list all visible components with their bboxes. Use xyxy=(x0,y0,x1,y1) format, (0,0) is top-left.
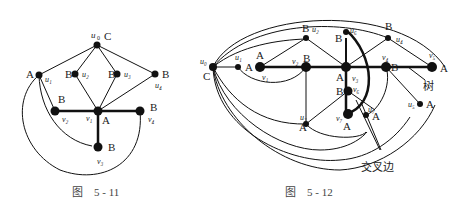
svg-text:B: B xyxy=(150,101,157,113)
figure-5-11-caption: 图 5 - 11 xyxy=(72,186,119,198)
tree-label: 树 xyxy=(423,79,434,92)
svg-text:B: B xyxy=(335,32,342,44)
svg-text:B: B xyxy=(162,68,169,80)
svg-text:v₅: v₅ xyxy=(429,51,436,60)
svg-text:v₆: v₆ xyxy=(353,85,360,94)
svg-text:v₁: v₁ xyxy=(262,73,269,82)
svg-text:v₂: v₂ xyxy=(62,115,69,124)
graph-figures: u0 C A u₁ B u₂ B u₃ B u₄ B v₂ v₁ A B v₄ … xyxy=(0,0,471,213)
svg-text:u₄: u₄ xyxy=(396,35,403,44)
svg-text:v₃: v₃ xyxy=(97,157,104,166)
svg-text:B: B xyxy=(391,61,398,73)
svg-text:C: C xyxy=(104,30,111,42)
svg-text:v₄: v₄ xyxy=(382,53,389,62)
figure-5-12 xyxy=(213,20,445,170)
svg-text:A: A xyxy=(26,68,34,80)
svg-text:u₆: u₆ xyxy=(350,26,357,35)
figure-5-11 xyxy=(22,45,155,175)
svg-text:A: A xyxy=(299,121,307,133)
svg-text:u₂: u₂ xyxy=(312,25,319,34)
svg-text:A: A xyxy=(372,110,380,122)
cross-edge-label: 交叉边 xyxy=(361,160,394,173)
svg-text:B: B xyxy=(303,52,310,64)
svg-text:0: 0 xyxy=(97,35,100,41)
svg-text:u₃: u₃ xyxy=(124,70,131,79)
svg-text:v₁: v₁ xyxy=(86,114,93,123)
svg-text:u₀: u₀ xyxy=(200,57,207,66)
svg-text:B: B xyxy=(65,68,72,80)
svg-text:B: B xyxy=(336,85,343,97)
svg-text:A: A xyxy=(343,120,351,132)
svg-text:u₅: u₅ xyxy=(408,100,415,109)
svg-text:v₇: v₇ xyxy=(336,114,343,123)
svg-text:A: A xyxy=(256,49,264,61)
svg-text:u₄: u₄ xyxy=(155,81,162,90)
svg-text:B: B xyxy=(385,20,392,32)
svg-text:u₁: u₁ xyxy=(45,75,52,84)
svg-text:C: C xyxy=(203,70,210,82)
svg-text:v₂: v₂ xyxy=(292,57,299,66)
svg-text:A: A xyxy=(426,98,434,110)
svg-text:u₁: u₁ xyxy=(235,53,242,62)
svg-text:v₄: v₄ xyxy=(148,115,155,124)
svg-text:A: A xyxy=(440,62,448,74)
svg-text:B: B xyxy=(302,22,309,34)
svg-text:B: B xyxy=(58,93,65,105)
svg-text:A: A xyxy=(102,114,110,126)
svg-text:B: B xyxy=(108,68,115,80)
svg-text:B: B xyxy=(108,141,115,153)
svg-text:A: A xyxy=(336,71,344,83)
svg-text:v₃: v₃ xyxy=(352,74,359,83)
svg-text:A: A xyxy=(245,61,253,73)
svg-text:u₂: u₂ xyxy=(82,70,89,79)
figure-5-12-caption: 图 5 - 12 xyxy=(285,186,333,198)
svg-text:u: u xyxy=(91,30,96,40)
